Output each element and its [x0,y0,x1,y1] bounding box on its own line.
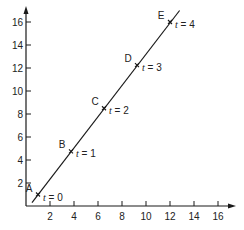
y-tick-label: 2 [17,178,23,189]
parameter-label: t = 3 [142,62,162,73]
parametric-line-chart: 246810121416 246810121416 At = 0Bt = 1Ct… [0,0,244,230]
y-tick-label: 10 [12,86,24,97]
x-tick-label: 16 [212,211,224,222]
y-tick-label: 16 [12,17,24,28]
x-axis-arrow-icon [228,204,236,209]
point-marker-icon [36,193,40,197]
data-series: At = 0Bt = 1Ct = 2Dt = 3Et = 4 [26,10,196,203]
parameter-label: t = 1 [76,148,96,159]
x-tick-label: 10 [140,211,152,222]
point-label: B [59,139,66,150]
y-tick-label: 8 [17,109,23,120]
x-tick-label: 12 [164,211,176,222]
x-axis-ticks: 246810121416 [47,201,224,222]
x-tick-label: 2 [47,211,53,222]
y-tick-label: 12 [12,63,24,74]
parameter-label: t = 4 [175,19,195,30]
point-label: E [158,10,165,21]
y-axis-arrow-icon [24,6,29,14]
x-tick-label: 8 [119,211,125,222]
point-label: D [124,53,131,64]
parameter-label: t = 2 [109,105,129,116]
axes [24,6,237,209]
parameter-label: t = 0 [43,192,63,203]
point-label: A [26,183,33,194]
x-tick-label: 14 [188,211,200,222]
x-tick-label: 4 [71,211,77,222]
y-tick-label: 6 [17,132,23,143]
x-tick-label: 6 [95,211,101,222]
y-tick-label: 14 [12,40,24,51]
y-axis-ticks: 246810121416 [12,17,31,189]
y-tick-label: 4 [17,155,23,166]
point-label: C [91,96,98,107]
